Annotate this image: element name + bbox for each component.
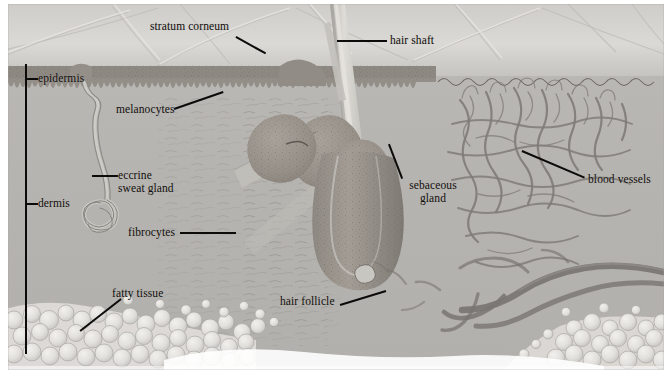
label-hair-shaft: hair shaft	[390, 34, 434, 47]
label-hair-follicle: hair follicle	[280, 295, 335, 308]
label-eccrine-line-2: sweat gland	[118, 182, 174, 194]
dermis-bracket	[25, 80, 27, 354]
label-fatty-tissue: fatty tissue	[112, 287, 163, 300]
fibrocytes-leader	[180, 232, 236, 234]
label-stratum-corneum: stratum corneum	[150, 20, 229, 33]
label-eccrine-sweat-gland: eccrine sweat gland	[118, 169, 174, 194]
eccrine-sweat-gland-leader	[92, 175, 118, 177]
hair-shaft-leader	[337, 40, 387, 42]
label-melanocytes: melanocytes	[116, 103, 175, 116]
label-blood-vessels: blood vessels	[588, 173, 651, 186]
skin-cross-section-figure: stratum corneum hair shaft epidermis mel…	[0, 0, 668, 376]
epidermis-leader	[25, 78, 38, 80]
label-sebaceous-line-1: sebaceous	[409, 179, 457, 191]
label-dermis: dermis	[38, 197, 70, 210]
label-epidermis: epidermis	[38, 72, 84, 85]
label-fibrocytes: fibrocytes	[128, 226, 175, 239]
label-sebaceous-line-2: gland	[420, 192, 446, 204]
illustration-plate: stratum corneum hair shaft epidermis mel…	[8, 4, 664, 370]
skin-anatomy-artwork	[8, 4, 664, 370]
dermis-leader	[25, 203, 38, 205]
label-eccrine-line-1: eccrine	[118, 169, 152, 181]
label-sebaceous-gland: sebaceous gland	[398, 179, 468, 204]
